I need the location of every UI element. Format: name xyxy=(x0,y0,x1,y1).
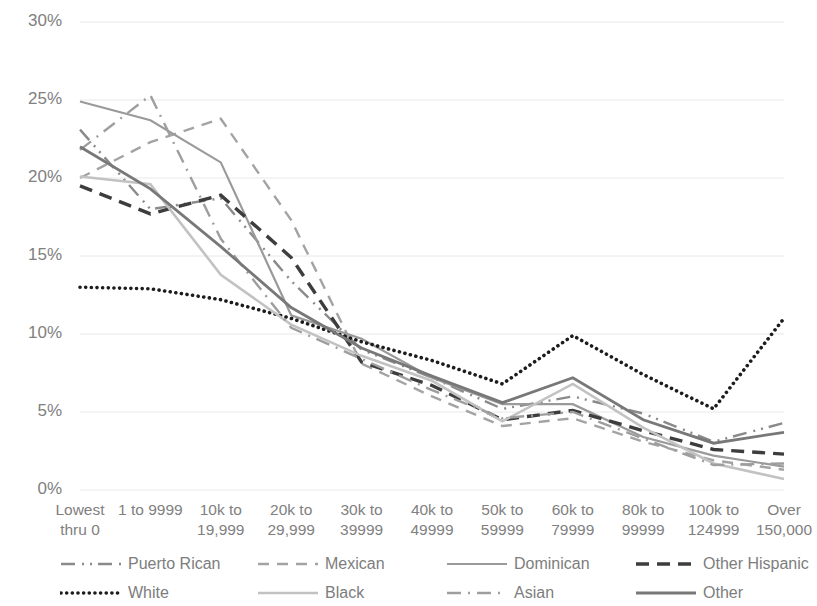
legend-swatch-dashed xyxy=(257,557,319,571)
legend-label: Mexican xyxy=(325,555,385,573)
legend-swatch-dashdot xyxy=(446,586,508,600)
x-axis-tick-8: 80k to 99999 xyxy=(604,500,682,540)
legend-item-black[interactable]: Black xyxy=(257,580,364,606)
x-axis-tick-10: Over 150,000 xyxy=(745,500,817,540)
legend-row-1: Puerto RicanMexicanDominicanOther Hispan… xyxy=(60,551,800,577)
legend-swatch-solid-dark xyxy=(635,586,697,600)
legend-item-asian[interactable]: Asian xyxy=(446,580,554,606)
legend-label: Other xyxy=(703,584,743,602)
y-axis-tick-30pct: 30% xyxy=(4,11,62,31)
series-line-black xyxy=(80,176,784,479)
legend-row-2: WhiteBlackAsianOther xyxy=(60,580,800,606)
legend-item-other-hispanic[interactable]: Other Hispanic xyxy=(635,551,809,577)
x-axis-tick-2: 10k to 19,999 xyxy=(182,500,260,540)
x-axis-tick-6: 50k to 59999 xyxy=(463,500,541,540)
y-axis-tick-0pct: 0% xyxy=(4,479,62,499)
x-axis-tick-7: 60k to 79999 xyxy=(534,500,612,540)
x-axis-tick-5: 40k to 49999 xyxy=(393,500,471,540)
legend-label: Black xyxy=(325,584,364,602)
y-axis-tick-5pct: 5% xyxy=(4,401,62,421)
legend-item-mexican[interactable]: Mexican xyxy=(257,551,385,577)
legend-label: Dominican xyxy=(514,555,590,573)
legend-label: Puerto Rican xyxy=(128,555,221,573)
x-axis-tick-9: 100k to 124999 xyxy=(675,500,753,540)
series-line-other-hispanic xyxy=(80,186,784,454)
legend-item-dominican[interactable]: Dominican xyxy=(446,551,590,577)
x-axis-tick-4: 30k to 39999 xyxy=(323,500,401,540)
legend-item-puerto-rican[interactable]: Puerto Rican xyxy=(60,551,221,577)
legend-item-white[interactable]: White xyxy=(60,580,169,606)
series-line-asian xyxy=(80,95,784,465)
legend-swatch-solid-light xyxy=(257,586,319,600)
legend-swatch-solid xyxy=(446,557,508,571)
y-axis-tick-10pct: 10% xyxy=(4,323,62,343)
legend-label: White xyxy=(128,584,169,602)
x-axis-tick-3: 20k to 29,999 xyxy=(252,500,330,540)
series-line-puerto-rican xyxy=(80,130,784,442)
x-axis-tick-1: 1 to 9999 xyxy=(111,500,189,520)
legend-swatch-dotted xyxy=(60,586,122,600)
legend-swatch-dashdotdot xyxy=(60,557,122,571)
legend-label: Other Hispanic xyxy=(703,555,809,573)
legend-label: Asian xyxy=(514,584,554,602)
y-axis-tick-20pct: 20% xyxy=(4,167,62,187)
legend-swatch-dashed-bold xyxy=(635,557,697,571)
y-axis-tick-15pct: 15% xyxy=(4,245,62,265)
legend-item-other[interactable]: Other xyxy=(635,580,743,606)
x-axis-tick-0: Lowest thru 0 xyxy=(41,500,119,540)
chart-legend: Puerto RicanMexicanDominicanOther Hispan… xyxy=(60,551,800,606)
y-axis-tick-25pct: 25% xyxy=(4,89,62,109)
